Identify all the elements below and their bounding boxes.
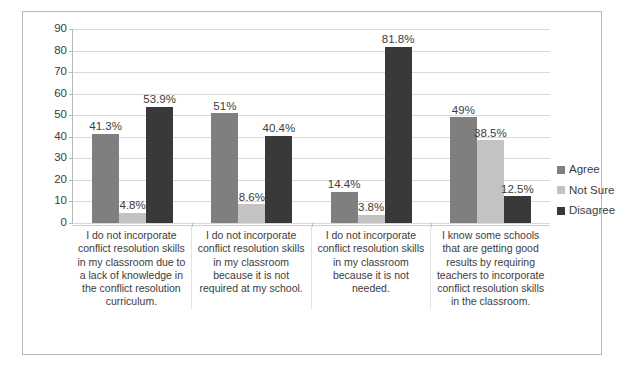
bar-value-label: 40.4% <box>263 123 296 135</box>
bar-notsure[interactable]: 8.6% <box>238 204 265 223</box>
bar-value-label: 12.5% <box>501 184 534 196</box>
bar-group: 49%38.5%12.5% <box>431 29 550 223</box>
bar-value-label: 81.8% <box>382 34 415 46</box>
category-label: I do not incorporate conflict resolution… <box>191 226 311 309</box>
y-axis-tick <box>69 223 73 224</box>
category-axis-labels: I do not incorporate conflict resolution… <box>72 225 550 309</box>
chart-frame: 9080706050403020100 41.3%4.8%53.9%51%8.6… <box>22 11 602 355</box>
legend-swatch-icon <box>557 166 565 174</box>
bars: 41.3%4.8%53.9% <box>73 29 192 223</box>
bar-value-label: 14.4% <box>328 179 361 191</box>
bar-group: 41.3%4.8%53.9% <box>73 29 192 223</box>
bar-value-label: 38.5% <box>474 128 507 140</box>
y-axis-tick-label: 40 <box>54 131 67 143</box>
y-axis-tick-label: 90 <box>54 23 67 35</box>
y-axis-tick-label: 50 <box>54 109 67 121</box>
bar-agree[interactable]: 51% <box>211 113 238 223</box>
bar-value-label: 51% <box>213 101 236 113</box>
legend-label: Agree <box>569 164 600 176</box>
legend-label: Not Sure <box>569 185 614 197</box>
bars: 51%8.6%40.4% <box>192 29 311 223</box>
bar-disagree[interactable]: 12.5% <box>504 196 531 223</box>
bar-value-label: 3.8% <box>358 202 384 214</box>
y-axis-tick-label: 30 <box>54 153 67 165</box>
legend-item-notsure[interactable]: Not Sure <box>557 185 621 197</box>
legend-item-agree[interactable]: Agree <box>557 164 621 176</box>
plot-area: 9080706050403020100 41.3%4.8%53.9%51%8.6… <box>72 29 550 224</box>
legend-swatch-icon <box>557 186 565 194</box>
category-label: I do not incorporate conflict resolution… <box>72 226 191 309</box>
bar-groups: 41.3%4.8%53.9%51%8.6%40.4%14.4%3.8%81.8%… <box>73 29 550 223</box>
bar-group: 51%8.6%40.4% <box>192 29 311 223</box>
category-label: I know some schools that are getting goo… <box>430 226 550 309</box>
legend-swatch-icon <box>557 207 565 215</box>
y-axis-tick-label: 0 <box>61 217 67 229</box>
bar-disagree[interactable]: 53.9% <box>146 107 173 223</box>
bar-notsure[interactable]: 4.8% <box>119 213 146 223</box>
bar-group: 14.4%3.8%81.8% <box>312 29 431 223</box>
bar-agree[interactable]: 14.4% <box>331 192 358 223</box>
bars: 49%38.5%12.5% <box>431 29 550 223</box>
bar-agree[interactable]: 49% <box>450 117 477 223</box>
bar-value-label: 41.3% <box>89 121 122 133</box>
bar-disagree[interactable]: 81.8% <box>385 47 412 223</box>
y-axis-tick-label: 60 <box>54 88 67 100</box>
bars: 14.4%3.8%81.8% <box>312 29 431 223</box>
y-axis-tick-label: 80 <box>54 45 67 57</box>
legend-label: Disagree <box>569 205 615 217</box>
plot-region: 9080706050403020100 41.3%4.8%53.9%51%8.6… <box>72 29 550 224</box>
bar-value-label: 53.9% <box>143 94 176 106</box>
y-axis-tick-label: 10 <box>54 196 67 208</box>
bar-agree[interactable]: 41.3% <box>92 134 119 223</box>
bar-value-label: 8.6% <box>239 192 265 204</box>
y-axis-tick-label: 20 <box>54 174 67 186</box>
bar-disagree[interactable]: 40.4% <box>265 136 292 223</box>
y-axis-tick-label: 70 <box>54 66 67 78</box>
bar-notsure[interactable]: 3.8% <box>358 215 385 223</box>
chart-legend: AgreeNot SureDisagree <box>557 164 621 226</box>
bar-notsure[interactable]: 38.5% <box>477 140 504 223</box>
legend-item-disagree[interactable]: Disagree <box>557 205 621 217</box>
bar-value-label: 4.8% <box>120 200 146 212</box>
category-label: I do not incorporate conflict resolution… <box>311 226 431 309</box>
bar-value-label: 49% <box>452 105 475 117</box>
